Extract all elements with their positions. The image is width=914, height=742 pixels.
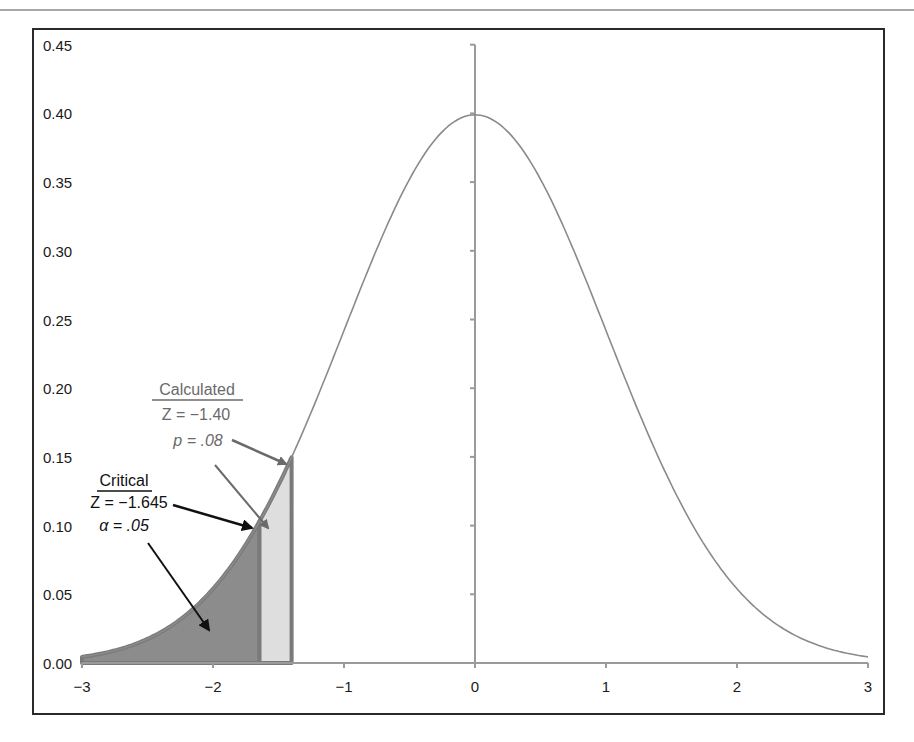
x-tick-label: −2 bbox=[204, 678, 221, 695]
y-tick-label: 0.05 bbox=[43, 586, 72, 603]
critical-alpha-arrow bbox=[148, 543, 209, 630]
critical-region-area bbox=[82, 521, 260, 663]
x-tick-label: 0 bbox=[471, 678, 479, 695]
y-tick-label: 0.00 bbox=[43, 655, 72, 672]
critical-z-value: Z = −1.645 bbox=[90, 494, 167, 511]
critical-heading: Critical bbox=[100, 472, 149, 489]
calculated-region-area bbox=[260, 457, 292, 663]
y-tick-label: 0.20 bbox=[43, 380, 72, 397]
y-tick-label: 0.35 bbox=[43, 174, 72, 191]
y-axis-tick-labels: 0.000.050.100.150.200.250.300.350.400.45 bbox=[43, 37, 72, 672]
y-tick-label: 0.45 bbox=[43, 37, 72, 54]
calculated-heading: Calculated bbox=[159, 381, 235, 398]
calculated-z-value: Z = −1.40 bbox=[162, 406, 231, 423]
y-tick-label: 0.40 bbox=[43, 105, 72, 122]
x-tick-label: −3 bbox=[73, 678, 90, 695]
y-tick-label: 0.15 bbox=[43, 449, 72, 466]
x-tick-label: −1 bbox=[335, 678, 352, 695]
x-tick-label: 1 bbox=[602, 678, 610, 695]
y-tick-label: 0.25 bbox=[43, 312, 72, 329]
normal-distribution-chart: 0.000.050.100.150.200.250.300.350.400.45… bbox=[0, 0, 914, 742]
calculated-z-arrow bbox=[232, 440, 286, 464]
y-tick-label: 0.10 bbox=[43, 518, 72, 535]
x-tick-label: 3 bbox=[864, 678, 872, 695]
x-axis-tick-labels: −3−2−10123 bbox=[73, 678, 872, 695]
y-tick-label: 0.30 bbox=[43, 243, 72, 260]
x-tick-label: 2 bbox=[733, 678, 741, 695]
critical-z-arrow bbox=[173, 505, 252, 528]
calculated-p-value: p = .08 bbox=[172, 432, 222, 449]
critical-alpha-value: α = .05 bbox=[99, 517, 149, 534]
